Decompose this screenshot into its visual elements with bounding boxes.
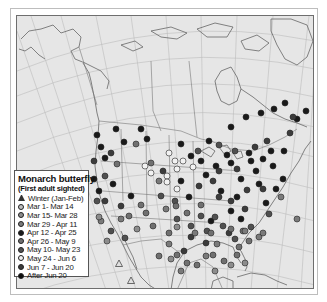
sighting-marker xyxy=(173,203,179,209)
sighting-marker xyxy=(228,226,234,232)
sighting-marker xyxy=(144,136,150,142)
sighting-marker xyxy=(287,130,293,136)
sighting-marker xyxy=(194,262,200,268)
sighting-marker xyxy=(280,176,286,182)
sighting-marker xyxy=(228,208,234,214)
sighting-marker xyxy=(282,100,288,106)
sighting-marker xyxy=(234,194,240,200)
sighting-marker xyxy=(118,203,124,209)
sighting-marker xyxy=(174,166,180,172)
circle-icon xyxy=(18,221,24,227)
sighting-marker xyxy=(268,148,274,154)
sighting-marker xyxy=(214,241,220,247)
borders xyxy=(79,47,297,289)
sighting-marker xyxy=(212,214,218,220)
sighting-marker xyxy=(242,260,248,266)
sighting-marker xyxy=(98,144,104,150)
sighting-marker xyxy=(166,241,172,247)
sighting-marker xyxy=(242,206,248,212)
sighting-marker xyxy=(246,150,252,156)
circle-icon xyxy=(18,230,24,236)
sighting-marker xyxy=(110,181,116,187)
sighting-marker xyxy=(126,213,132,219)
sighting-marker xyxy=(104,238,110,244)
sighting-marker xyxy=(206,138,212,144)
sighting-marker xyxy=(108,228,114,234)
sighting-marker xyxy=(228,198,234,204)
circle-icon xyxy=(18,238,24,244)
circle-icon xyxy=(18,204,24,210)
sighting-marker xyxy=(121,139,127,145)
sighting-marker xyxy=(143,210,149,216)
sighting-marker xyxy=(174,252,180,258)
sighting-marker xyxy=(208,230,214,236)
sighting-marker xyxy=(133,141,139,147)
sighting-marker xyxy=(156,178,162,184)
sighting-marker xyxy=(273,186,279,192)
sighting-marker xyxy=(271,106,277,112)
sighting-marker xyxy=(148,170,154,176)
sighting-marker xyxy=(248,224,254,230)
sighting-marker xyxy=(210,252,216,258)
sighting-marker xyxy=(128,193,134,199)
sighting-marker xyxy=(122,235,128,241)
legend-item: May 10- May 23 xyxy=(18,246,86,255)
sighting-marker xyxy=(188,153,194,159)
sighting-marker xyxy=(264,138,270,144)
sighting-marker xyxy=(198,213,204,219)
sighting-marker xyxy=(243,114,249,120)
sighting-marker xyxy=(242,228,248,234)
sighting-marker xyxy=(236,244,242,250)
winter-triangle-icon xyxy=(116,260,123,267)
sighting-marker xyxy=(138,202,144,208)
sighting-marker xyxy=(102,173,108,179)
sighting-marker xyxy=(258,110,264,116)
sighting-marker xyxy=(238,216,244,222)
legend-item: Winter (Jan-Feb) xyxy=(18,194,86,203)
legend-item: Jun 7 - Jun 20 xyxy=(18,263,86,272)
sighting-marker xyxy=(281,148,287,154)
sighting-marker xyxy=(198,202,204,208)
sighting-marker xyxy=(260,156,266,162)
sighting-marker xyxy=(174,224,180,230)
circle-icon xyxy=(18,255,24,261)
sighting-marker xyxy=(163,206,169,212)
sighting-marker xyxy=(290,114,296,120)
sighting-markers xyxy=(91,100,309,284)
sighting-marker xyxy=(266,211,272,217)
sighting-marker xyxy=(263,200,269,206)
sighting-marker xyxy=(218,188,224,194)
sighting-marker xyxy=(232,236,238,242)
sighting-marker xyxy=(260,186,266,192)
sighting-marker xyxy=(224,152,230,158)
legend-subtitle: (First adult sighted) xyxy=(18,184,86,194)
circle-icon xyxy=(18,273,24,279)
sighting-marker xyxy=(216,142,222,148)
sighting-marker xyxy=(134,226,140,232)
sighting-marker xyxy=(203,253,209,259)
sighting-marker xyxy=(94,198,100,204)
legend-item: After Jun 20 xyxy=(18,271,86,280)
legend-label: After Jun 20 xyxy=(27,271,67,280)
legend-item: Apr 12 - Apr 25 xyxy=(18,228,86,237)
circle-icon xyxy=(18,247,24,253)
sighting-marker xyxy=(174,216,180,222)
sighting-marker xyxy=(150,223,156,229)
sighting-marker xyxy=(102,155,108,161)
legend-item: Apr 26 - May 9 xyxy=(18,237,86,246)
sighting-marker xyxy=(270,163,276,169)
sighting-marker xyxy=(174,186,180,192)
sighting-marker xyxy=(96,188,102,194)
sighting-marker xyxy=(252,144,258,150)
sighting-marker xyxy=(256,181,262,187)
legend-item: Mar 29 - Apr 11 xyxy=(18,220,86,229)
sighting-marker xyxy=(195,148,201,154)
sighting-marker xyxy=(148,160,154,166)
sighting-marker xyxy=(168,256,174,262)
sighting-marker xyxy=(166,150,172,156)
sighting-marker xyxy=(278,194,284,200)
circle-icon xyxy=(18,264,24,270)
sighting-marker xyxy=(212,268,218,274)
sighting-marker xyxy=(166,230,172,236)
sighting-marker xyxy=(118,216,124,222)
